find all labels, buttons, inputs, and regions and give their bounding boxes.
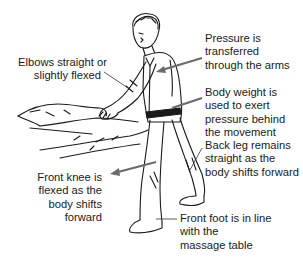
- elbows-leader-line: [104, 72, 128, 88]
- label-body-weight-line-2: used to exert: [205, 99, 285, 112]
- label-front-knee-line-4: forward: [20, 211, 102, 224]
- label-front-knee-line-3: body shifts: [20, 198, 102, 211]
- label-elbows-line-2: slightly flexed: [18, 69, 101, 82]
- label-back-leg-line-3: body shifts forward: [205, 166, 299, 179]
- label-front-foot-line-3: massage table: [180, 239, 271, 252]
- label-pressure: Pressure is transferred through the arms: [205, 32, 290, 72]
- front-knee-arrowhead-icon: [110, 168, 120, 176]
- label-pressure-line-3: through the arms: [205, 59, 290, 72]
- label-front-knee-line-1: Front knee is: [20, 171, 102, 184]
- head-figure: [133, 14, 160, 58]
- label-back-leg: Back leg remains straight as the body sh…: [205, 139, 299, 179]
- label-front-foot: Front foot is in line with the massage t…: [180, 212, 271, 252]
- label-elbows-line-1: Elbows straight or: [18, 56, 101, 69]
- body-mechanics-diagram: Elbows straight or slightly flexed Press…: [0, 0, 303, 258]
- label-back-leg-line-2: straight as the: [205, 152, 299, 165]
- label-pressure-line-2: transferred: [205, 45, 290, 58]
- label-body-weight-line-3: pressure behind: [205, 113, 285, 126]
- label-body-weight: Body weight is used to exert pressure be…: [205, 86, 285, 140]
- massage-table-figure: [18, 104, 148, 158]
- label-front-foot-line-1: Front foot is in line: [180, 212, 271, 225]
- torso-figure: [143, 53, 182, 123]
- label-front-foot-line-2: with the: [180, 225, 271, 238]
- label-front-knee-line-2: flexed as the: [20, 184, 102, 197]
- label-body-weight-line-1: Body weight is: [205, 86, 285, 99]
- label-back-leg-line-1: Back leg remains: [205, 139, 299, 152]
- label-elbows: Elbows straight or slightly flexed: [18, 56, 101, 83]
- label-front-knee: Front knee is flexed as the body shifts …: [20, 171, 102, 225]
- label-body-weight-line-4: the movement: [205, 126, 285, 139]
- label-pressure-line-1: Pressure is: [205, 32, 290, 45]
- front-knee-arrow-line: [118, 162, 156, 172]
